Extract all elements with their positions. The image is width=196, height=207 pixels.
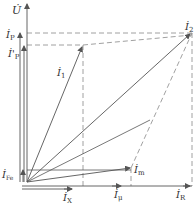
- label-im: İm: [133, 164, 145, 177]
- label-ix: İX: [62, 192, 72, 205]
- i2-phasor: [27, 34, 190, 182]
- label-ir: İR: [175, 189, 186, 202]
- i-mid-phasor: [27, 120, 150, 182]
- label-u: U̇: [12, 4, 22, 17]
- label-ip-prime: İ'P: [7, 48, 20, 61]
- label-ife: İFe: [1, 169, 14, 181]
- label-ip: İP: [5, 29, 15, 42]
- label-i1: İ1: [56, 67, 65, 80]
- label-imu: İμ: [113, 189, 123, 202]
- phasor-diagram: U̇ İ2 İP İ'P İ1 İm İFe İX İμ İR: [0, 0, 196, 207]
- label-i2: İ2: [184, 21, 193, 34]
- dashed-projection-lines: [27, 33, 192, 186]
- i1-phasor: [27, 47, 82, 182]
